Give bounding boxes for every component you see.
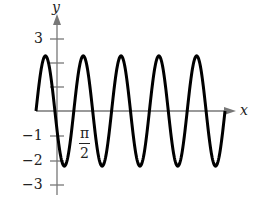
fraction-bar [79, 143, 90, 144]
x-tick-label-pi-denominator: 2 [80, 146, 89, 160]
y-tick-label-neg1: −1 [22, 128, 43, 142]
y-tick-label-neg3: −3 [22, 177, 43, 191]
y-tick-label-neg2: −2 [22, 153, 43, 167]
y-tick-label-3: 3 [34, 31, 43, 45]
x-tick-label-pi-numerator: π [80, 126, 89, 140]
x-axis-label: x [240, 103, 248, 117]
y-axis-arrow-icon [53, 14, 61, 25]
y-axis-label: y [52, 0, 60, 14]
